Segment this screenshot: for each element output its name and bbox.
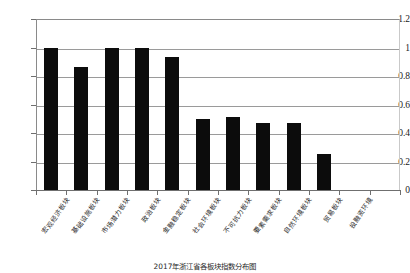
bar: [165, 57, 179, 190]
x-axis-category-label-text: 社会环境板块: [192, 196, 223, 235]
bar-slot: [339, 19, 369, 190]
bar-slot: [157, 19, 187, 190]
x-axis-tick-mark: [36, 190, 37, 195]
x-axis-category-label-text: 金融稳定板块: [162, 196, 193, 235]
x-axis-category-label-text: 宏观经济板块: [40, 196, 71, 235]
x-axis-category-label-text: 基础设施板块: [71, 196, 102, 235]
x-axis-category-label-text: 政治板块: [140, 196, 163, 224]
bar: [44, 48, 58, 191]
x-axis-category-label-text: 自然环境板块: [283, 196, 314, 235]
x-axis-category-label-text: 市场潜力板块: [101, 196, 132, 235]
bar-chart-figure: 00.20.40.60.811.2 宏观经济板块基础设施板块市场潜力板块政治板块…: [0, 0, 410, 273]
x-axis-category-label-text: 贸易板块: [322, 196, 345, 224]
figure-caption: 2017年浙江省各板块指数分布图: [0, 261, 410, 273]
x-axis-category-label-text: 要素需求板块: [253, 196, 284, 235]
x-axis-category-label-text: 投融资环境: [348, 196, 375, 230]
x-axis-tick-mark: [400, 190, 401, 195]
x-axis-labels: 宏观经济板块基础设施板块市场潜力板块政治板块金融稳定板块社会环境板块不可抗力板块…: [36, 196, 400, 258]
bar-slot: [36, 19, 66, 190]
x-axis-category-label-text: 不可抗力板块: [222, 196, 253, 235]
